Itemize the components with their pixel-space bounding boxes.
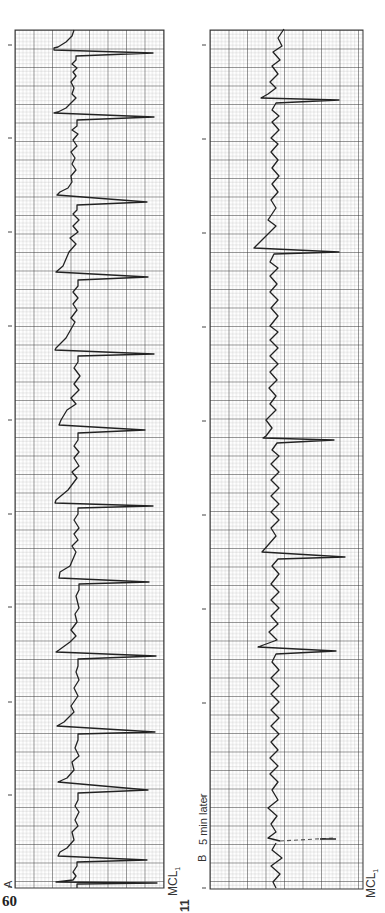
strip-a-grid (15, 30, 164, 888)
strip-b-lead: MCL (364, 873, 378, 898)
page-number: 60 (2, 893, 17, 910)
strip-a-lead: MCL (166, 871, 180, 896)
strip-a-label: A (2, 881, 14, 888)
ecg-figure (0, 0, 385, 913)
strip-b-label: B (196, 855, 208, 862)
strip-b-lead-label: MCL1 (364, 869, 379, 898)
strip-b-grid (210, 30, 363, 889)
strip-b-lead-subscript: 1 (372, 869, 379, 873)
strip-b (202, 29, 363, 889)
strip-a (8, 30, 164, 888)
figure-number: 11 (178, 899, 192, 912)
strip-a-lead-subscript: 1 (174, 867, 181, 871)
strip-a-time-marks (8, 45, 12, 887)
strip-b-note: 5 min later (197, 794, 209, 845)
strip-a-lead-label: MCL1 (166, 867, 181, 896)
strip-b-time-marks (202, 45, 206, 888)
